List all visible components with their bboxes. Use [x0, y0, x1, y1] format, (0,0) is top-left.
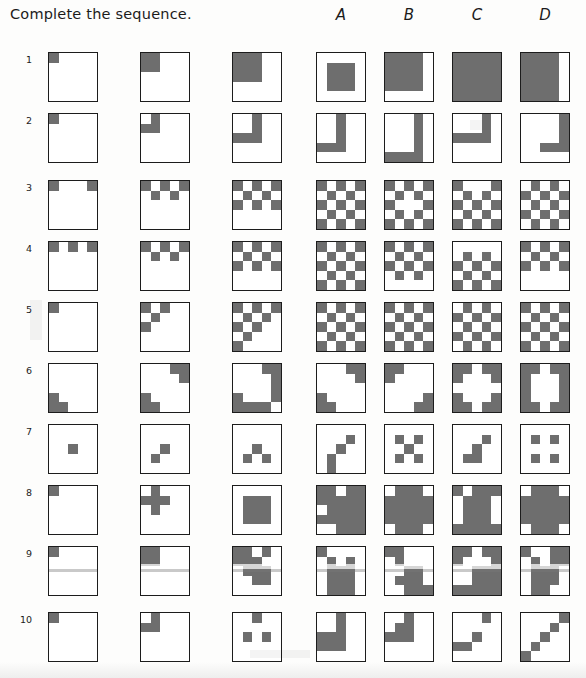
empty-square — [59, 322, 69, 332]
opt-2-A[interactable] — [316, 113, 366, 163]
opt-5-A[interactable] — [316, 302, 366, 352]
empty-square — [179, 252, 189, 262]
empty-square — [243, 651, 253, 661]
seq-2-1[interactable] — [48, 113, 98, 163]
empty-square — [327, 114, 337, 124]
empty-square — [170, 613, 180, 623]
opt-7-C[interactable] — [452, 424, 502, 474]
empty-square — [49, 63, 59, 73]
pattern-grid — [521, 547, 569, 595]
seq-3-1[interactable] — [48, 180, 98, 230]
opt-3-D[interactable] — [520, 180, 570, 230]
seq-5-1[interactable] — [48, 302, 98, 352]
empty-square — [179, 524, 189, 534]
empty-square — [170, 332, 180, 342]
opt-7-B[interactable] — [384, 424, 434, 474]
empty-square — [151, 515, 161, 525]
opt-8-D[interactable] — [520, 485, 570, 535]
seq-7-3[interactable] — [232, 424, 282, 474]
seq-9-1[interactable] — [48, 546, 98, 596]
seq-4-1[interactable] — [48, 241, 98, 291]
opt-9-A[interactable] — [316, 546, 366, 596]
seq-5-3[interactable] — [232, 302, 282, 352]
seq-8-1[interactable] — [48, 485, 98, 535]
filled-square — [540, 63, 550, 73]
opt-1-D[interactable] — [520, 52, 570, 102]
empty-square — [59, 463, 69, 473]
seq-4-3[interactable] — [232, 241, 282, 291]
seq-9-2[interactable] — [140, 546, 190, 596]
seq-1-1[interactable] — [48, 52, 98, 102]
filled-square — [550, 63, 560, 73]
opt-6-A[interactable] — [316, 363, 366, 413]
opt-4-B[interactable] — [384, 241, 434, 291]
seq-9-3[interactable] — [232, 546, 282, 596]
opt-9-B[interactable] — [384, 546, 434, 596]
opt-6-C[interactable] — [452, 363, 502, 413]
seq-2-3[interactable] — [232, 113, 282, 163]
opt-9-D[interactable] — [520, 546, 570, 596]
seq-1-3[interactable] — [232, 52, 282, 102]
seq-2-2[interactable] — [140, 113, 190, 163]
filled-square — [404, 82, 414, 92]
opt-10-C[interactable] — [452, 612, 502, 662]
empty-square — [262, 261, 272, 271]
seq-7-1[interactable] — [48, 424, 98, 474]
opt-7-D[interactable] — [520, 424, 570, 474]
filled-square — [423, 219, 433, 229]
pattern-grid — [141, 486, 189, 534]
empty-square — [395, 133, 405, 143]
opt-1-B[interactable] — [384, 52, 434, 102]
opt-10-A[interactable] — [316, 612, 366, 662]
opt-6-B[interactable] — [384, 363, 434, 413]
seq-7-2[interactable] — [140, 424, 190, 474]
opt-1-A[interactable] — [316, 52, 366, 102]
seq-10-3[interactable] — [232, 612, 282, 662]
opt-6-D[interactable] — [520, 363, 570, 413]
seq-10-1[interactable] — [48, 612, 98, 662]
seq-10-2[interactable] — [140, 612, 190, 662]
seq-6-2[interactable] — [140, 363, 190, 413]
opt-5-B[interactable] — [384, 302, 434, 352]
opt-10-D[interactable] — [520, 612, 570, 662]
empty-square — [262, 642, 272, 652]
seq-8-2[interactable] — [140, 485, 190, 535]
opt-8-B[interactable] — [384, 485, 434, 535]
seq-5-2[interactable] — [140, 302, 190, 352]
seq-6-1[interactable] — [48, 363, 98, 413]
opt-3-C[interactable] — [452, 180, 502, 230]
empty-square — [170, 152, 180, 162]
opt-3-B[interactable] — [384, 180, 434, 230]
opt-5-C[interactable] — [452, 302, 502, 352]
seq-3-3[interactable] — [232, 180, 282, 230]
empty-square — [317, 524, 327, 534]
opt-4-A[interactable] — [316, 241, 366, 291]
empty-square — [472, 651, 482, 661]
filled-square — [355, 219, 365, 229]
empty-square — [141, 383, 151, 393]
empty-square — [78, 505, 88, 515]
seq-6-3[interactable] — [232, 363, 282, 413]
opt-2-C[interactable] — [452, 113, 502, 163]
opt-3-A[interactable] — [316, 180, 366, 230]
seq-4-2[interactable] — [140, 241, 190, 291]
opt-10-B[interactable] — [384, 612, 434, 662]
seq-3-2[interactable] — [140, 180, 190, 230]
opt-4-D[interactable] — [520, 241, 570, 291]
opt-2-B[interactable] — [384, 113, 434, 163]
opt-8-A[interactable] — [316, 485, 366, 535]
opt-2-D[interactable] — [520, 113, 570, 163]
opt-5-D[interactable] — [520, 302, 570, 352]
opt-8-C[interactable] — [452, 485, 502, 535]
seq-8-3[interactable] — [232, 485, 282, 535]
opt-1-C[interactable] — [452, 52, 502, 102]
opt-4-C[interactable] — [452, 241, 502, 291]
filled-square — [151, 486, 161, 496]
empty-square — [252, 152, 262, 162]
empty-square — [540, 651, 550, 661]
empty-square — [68, 585, 78, 595]
seq-1-2[interactable] — [140, 52, 190, 102]
opt-9-C[interactable] — [452, 546, 502, 596]
opt-7-A[interactable] — [316, 424, 366, 474]
filled-square — [482, 114, 492, 124]
